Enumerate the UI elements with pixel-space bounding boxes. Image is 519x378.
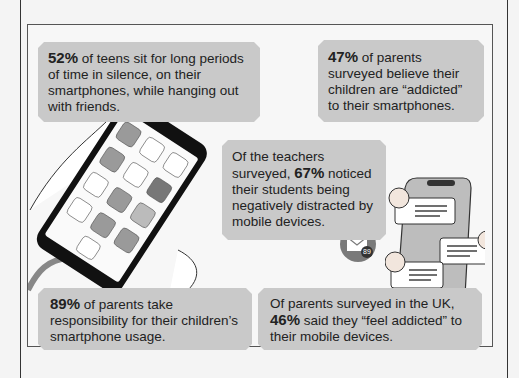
chat-phone-icon [385, 176, 485, 296]
stat-teens-silence: 52% of teens sit for long periods of tim… [38, 42, 260, 122]
stat-uk-parents-addicted: Of parents surveyed in the UK, 46% said … [258, 288, 482, 350]
stat-parents-believe-addicted: 47% of parents surveyed believe their ch… [318, 40, 484, 122]
stat-parents-responsibility: 89% of parents take responsibility for t… [38, 288, 252, 350]
left-page-rule [20, 0, 21, 378]
stat-teachers-distracted: Of the teachers surveyed, 67% noticed th… [222, 140, 386, 240]
mail-badge-count: 89 [362, 248, 372, 255]
right-page-rule [507, 0, 508, 378]
phone-in-hand-icon [28, 100, 218, 300]
